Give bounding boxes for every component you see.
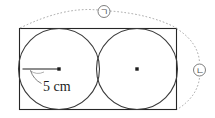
figure-canvas: ㄱ ㄴ 5 cm — [0, 0, 215, 118]
radius-measure-label: 5 cm — [43, 79, 71, 94]
callout-label-right-text: ㄴ — [196, 66, 204, 76]
figure-background — [0, 0, 215, 118]
left-circle-center-dot — [57, 67, 60, 70]
geometry-figure: ㄱ ㄴ 5 cm — [0, 0, 215, 118]
callout-label-top-text: ㄱ — [100, 7, 108, 17]
right-circle-center-dot — [135, 67, 138, 70]
